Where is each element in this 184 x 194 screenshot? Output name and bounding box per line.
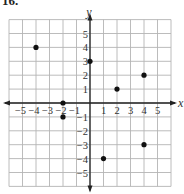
data-point [87,59,92,64]
y-tick-label: 1 [83,84,88,95]
data-point [60,114,65,119]
x-tick-label: 1 [101,105,106,116]
x-axis-arrow-right-icon [170,101,177,106]
y-tick-label: −2 [77,126,88,137]
x-tick-label: 5 [155,105,160,116]
y-axis-arrow-down-icon [88,185,93,192]
x-axis-arrow-left-icon [3,101,10,106]
x-axis-label: x [177,96,184,110]
data-point [33,45,38,50]
x-tick-label: −3 [42,105,53,116]
x-tick-label: −2 [55,105,66,116]
data-point [114,87,119,92]
y-tick-label: 2 [83,70,88,81]
y-axis-label: y [85,5,92,19]
x-tick-label: 3 [128,105,133,116]
x-tick-label: −4 [28,105,40,116]
data-point [141,142,146,147]
x-tick-label: 2 [114,105,119,116]
axes [3,14,177,193]
y-tick-label: −1 [77,112,88,123]
data-point [141,73,146,78]
y-tick-label: −4 [77,154,89,165]
y-tick-label: 5 [83,29,88,40]
y-tick-label: −5 [77,168,88,179]
x-tick-label: 4 [141,105,147,116]
y-tick-label: 3 [83,56,88,67]
coordinate-plane: −5−4−3−2−112345 −5−4−3−2−112345 x y [0,0,184,194]
y-tick-label: −3 [77,140,88,151]
data-point [101,156,106,161]
y-tick-label: 4 [83,42,89,53]
x-tick-label: −5 [15,105,26,116]
data-point [60,100,65,105]
